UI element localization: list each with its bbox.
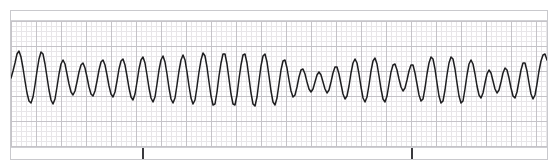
ecg-rhythm-strip: [0, 0, 558, 168]
top-margin-strip: [11, 11, 547, 21]
event-tick-1: [142, 148, 144, 159]
ecg-waveform-svg: [11, 21, 547, 147]
event-tick-2: [411, 148, 413, 159]
bottom-margin-strip: [11, 147, 547, 159]
graph-paper-grid: [11, 21, 547, 147]
ecg-trace-layer: [11, 21, 547, 147]
ecg-waveform-path: [11, 51, 547, 106]
